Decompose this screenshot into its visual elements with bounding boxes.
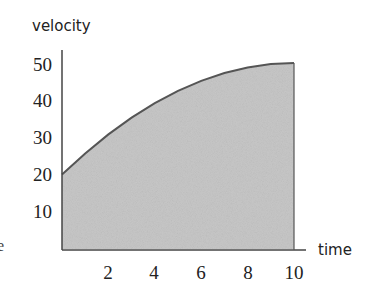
y-tick-label: 20 <box>18 165 52 185</box>
y-tick-label: 50 <box>18 55 52 75</box>
x-tick-label: 6 <box>186 263 216 283</box>
y-tick-label: 30 <box>18 128 52 148</box>
x-axis-label: time <box>318 241 352 259</box>
cropped-text-fragment: e <box>0 237 4 255</box>
y-tick-label: 10 <box>18 202 52 222</box>
y-axis-label: velocity <box>32 17 91 35</box>
x-tick-label: 2 <box>93 263 123 283</box>
velocity-time-chart: velocity time e 50 40 30 20 10 2 4 6 8 1… <box>0 0 381 296</box>
x-tick-label: 8 <box>233 263 263 283</box>
x-tick-label: 4 <box>139 263 169 283</box>
y-tick-label: 40 <box>18 91 52 111</box>
x-tick-label: 10 <box>279 263 309 283</box>
